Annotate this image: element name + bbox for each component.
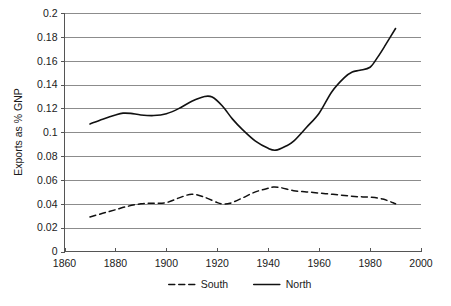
y-tick-label: 0.06 (37, 174, 58, 186)
y-tick-label: 0.18 (37, 31, 58, 43)
y-tick-label: 0.12 (37, 102, 58, 114)
y-tick-label: 0.14 (37, 78, 58, 90)
y-axis-ticks (61, 14, 65, 253)
y-tick-label: 0.2 (43, 7, 58, 19)
y-tick-label: 0.04 (37, 198, 58, 210)
x-tick-label: 1880 (104, 257, 128, 269)
y-tick-label: 0 (52, 245, 58, 257)
x-tick-label: 2000 (409, 257, 433, 269)
exports-as-percent-gnp-line-chart: 18601880190019201940196019802000 00.020.… (0, 0, 451, 306)
x-tick-label: 1920 (206, 257, 230, 269)
x-axis-tick-labels: 18601880190019201940196019802000 (53, 257, 433, 269)
legend-label-north: North (286, 278, 312, 290)
series-line-north (90, 29, 396, 151)
gridlines (65, 14, 422, 229)
x-tick-label: 1980 (358, 257, 382, 269)
data-series-group (90, 29, 396, 217)
chart-legend: SouthNorth (169, 278, 312, 290)
y-tick-label: 0.16 (37, 55, 58, 67)
y-axis-title: Exports as % GNP (12, 88, 24, 176)
y-tick-label: 0.08 (37, 150, 58, 162)
y-tick-label: 0.02 (37, 221, 58, 233)
chart-container: 18601880190019201940196019802000 00.020.… (0, 0, 451, 306)
x-tick-label: 1900 (155, 257, 179, 269)
y-axis-tick-labels: 00.020.040.060.080.10.120.140.160.180.2 (37, 7, 58, 257)
x-tick-label: 1940 (257, 257, 281, 269)
x-tick-label: 1860 (53, 257, 77, 269)
series-line-south (90, 187, 396, 217)
x-axis-ticks (66, 248, 422, 252)
legend-label-south: South (201, 278, 229, 290)
x-tick-label: 1960 (307, 257, 331, 269)
y-tick-label: 0.1 (43, 126, 58, 138)
